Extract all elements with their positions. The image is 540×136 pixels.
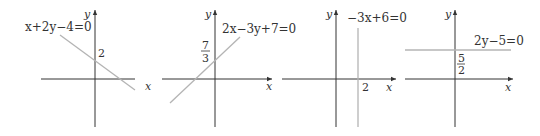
fraction-denominator: 3	[202, 52, 209, 65]
y-axis-label: y	[444, 8, 452, 21]
x-axis-label: x	[505, 81, 512, 94]
y-intercept-label: 2	[98, 47, 105, 60]
equation-label: 2x−3y+7=0	[222, 22, 296, 36]
y-axis-label: y	[325, 8, 333, 21]
equation-label: x+2y−4=0	[25, 20, 92, 34]
plotted-line	[60, 35, 135, 90]
fraction-numerator: 7	[202, 39, 209, 52]
x-axis-label: x	[145, 80, 152, 93]
y-intercept-fraction: 7 3	[201, 39, 210, 65]
x-axis-label: x	[386, 81, 393, 94]
graph-2: y x 2x−3y+7=0 7 3	[145, 8, 296, 127]
x-axis-label: x	[266, 80, 273, 93]
equation-label: −3x+6=0	[347, 11, 407, 25]
x-intercept-label: 2	[362, 81, 369, 94]
graph-1: y x+2y−4=0 2	[25, 8, 135, 127]
four-linear-graphs: y x+2y−4=0 2 y x 2x−3y+7=0 7 3 x y −3x+6…	[0, 0, 540, 136]
y-axis-label: y	[204, 8, 212, 21]
graph-4: y 2y−5=0 5 2 x	[405, 8, 524, 127]
fraction-denominator: 2	[458, 64, 465, 77]
equation-label: 2y−5=0	[474, 34, 524, 48]
y-intercept-fraction: 5 2	[457, 52, 465, 77]
